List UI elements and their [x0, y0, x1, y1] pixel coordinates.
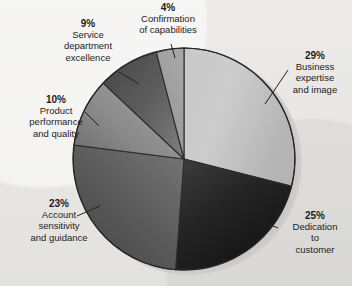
pie-label-account-line2: sensitivity	[10, 220, 108, 231]
pie-label-dedication: 25% Dedication to customer	[282, 210, 348, 255]
pie-label-service: 9% Service department excellence	[38, 18, 138, 63]
pie-label-product: 10% Product performance and quality	[6, 94, 106, 139]
pie-label-dedication-percent: 25%	[282, 210, 348, 221]
pie-label-product-line1: Product	[6, 105, 106, 116]
pie-label-dedication-line1: Dedication	[282, 221, 348, 232]
pie-label-business-line1: Business	[282, 61, 348, 72]
pie-label-confirmation-percent: 4%	[118, 2, 218, 13]
pie-label-service-line1: Service	[38, 29, 138, 40]
pie-label-account-line3: and guidance	[10, 232, 108, 243]
pie-label-business: 29% Business expertise and image	[282, 50, 348, 95]
pie-label-service-line2: department	[38, 40, 138, 51]
pie-label-account-line1: Account	[10, 209, 108, 220]
pie-label-business-line3: and image	[282, 84, 348, 95]
pie-label-account: 23% Account sensitivity and guidance	[10, 198, 108, 243]
pie-label-product-line3: and quality	[6, 128, 106, 139]
pie-label-dedication-line2: to	[282, 232, 348, 243]
pie-label-dedication-line3: customer	[282, 244, 348, 255]
pie-label-business-percent: 29%	[282, 50, 348, 61]
pie-label-account-percent: 23%	[10, 198, 108, 209]
pie-label-service-percent: 9%	[38, 18, 138, 29]
pie-label-business-line2: expertise	[282, 72, 348, 83]
pie-label-service-line3: excellence	[38, 52, 138, 63]
pie-label-product-percent: 10%	[6, 94, 106, 105]
pie-label-product-line2: performance	[6, 116, 106, 127]
